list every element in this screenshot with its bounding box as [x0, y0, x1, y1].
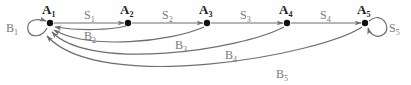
- svg-text:S3: S3: [240, 8, 251, 24]
- svg-text:A1: A1: [42, 2, 55, 19]
- edge-b1-self-loop: B1: [6, 20, 47, 37]
- svg-text:S2: S2: [162, 8, 173, 24]
- edge-s2: S2: [132, 8, 203, 24]
- svg-text:S5: S5: [389, 21, 400, 37]
- state-diagram: S1 S2 S3 S4 S5 B1 B2 B3 B4 B5 A1: [0, 0, 411, 85]
- svg-text:A2: A2: [120, 2, 133, 19]
- edge-b3: B3: [54, 27, 204, 54]
- svg-text:S4: S4: [320, 8, 331, 24]
- edge-s5-self-loop: S5: [368, 18, 400, 37]
- svg-text:A4: A4: [279, 2, 292, 19]
- edge-s4: S4: [291, 8, 361, 24]
- svg-text:S1: S1: [84, 8, 95, 24]
- svg-text:A3: A3: [199, 2, 212, 19]
- svg-text:A5: A5: [357, 2, 370, 19]
- edge-s1: S1: [54, 8, 124, 24]
- svg-text:B2: B2: [84, 29, 96, 45]
- svg-text:B5: B5: [276, 67, 288, 83]
- svg-text:B1: B1: [6, 21, 18, 37]
- node-a1: A1: [42, 2, 55, 26]
- edge-s3: S3: [211, 8, 283, 24]
